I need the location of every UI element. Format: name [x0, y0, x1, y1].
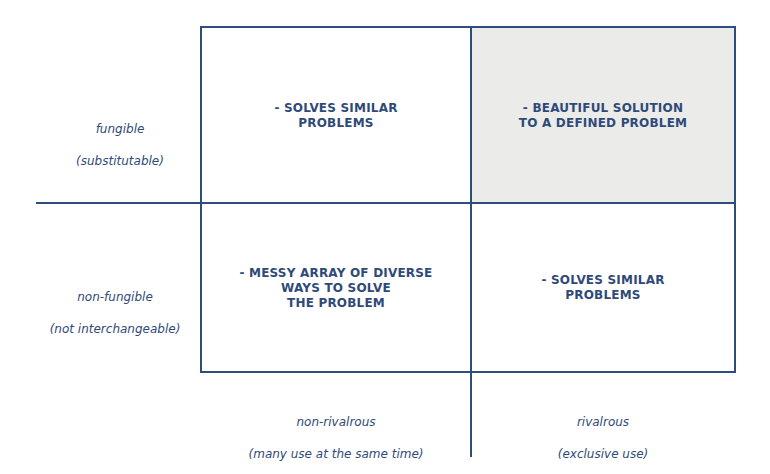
row-label-fungible: fungible (substitutable): [40, 105, 200, 185]
cell-fungible-rivalrous: - BEAUTIFUL SOLUTION TO A DEFINED PROBLE…: [472, 28, 734, 203]
vertical-axis-line: [470, 26, 472, 457]
row-term: non-fungible: [30, 289, 200, 305]
column-gloss: (many use at the same time): [202, 446, 470, 462]
right-border: [734, 26, 736, 373]
cell-text: - MESSY ARRAY OF DIVERSE WAYS TO SOLVE T…: [239, 266, 432, 311]
horizontal-axis-line: [36, 202, 736, 204]
row-label-non-fungible: non-fungible (not interchangeable): [30, 273, 200, 353]
row-gloss: (not interchangeable): [30, 321, 200, 337]
bottom-border: [200, 371, 736, 373]
cell-fungible-nonrivalrous: - SOLVES SIMILAR PROBLEMS: [202, 28, 470, 203]
column-term: rivalrous: [472, 414, 734, 430]
column-label-rivalrous: rivalrous (exclusive use): [472, 398, 734, 474]
column-term: non-rivalrous: [202, 414, 470, 430]
top-border: [200, 26, 736, 28]
left-border: [200, 26, 202, 373]
column-gloss: (exclusive use): [472, 446, 734, 462]
cell-text: - SOLVES SIMILAR PROBLEMS: [541, 273, 664, 303]
cell-text: - BEAUTIFUL SOLUTION TO A DEFINED PROBLE…: [519, 101, 687, 131]
row-term: fungible: [40, 121, 200, 137]
cell-text: - SOLVES SIMILAR PROBLEMS: [274, 101, 397, 131]
column-label-non-rivalrous: non-rivalrous (many use at the same time…: [202, 398, 470, 474]
cell-nonfungible-nonrivalrous: - MESSY ARRAY OF DIVERSE WAYS TO SOLVE T…: [202, 205, 470, 371]
cell-nonfungible-rivalrous: - SOLVES SIMILAR PROBLEMS: [472, 205, 734, 371]
row-gloss: (substitutable): [40, 153, 200, 169]
